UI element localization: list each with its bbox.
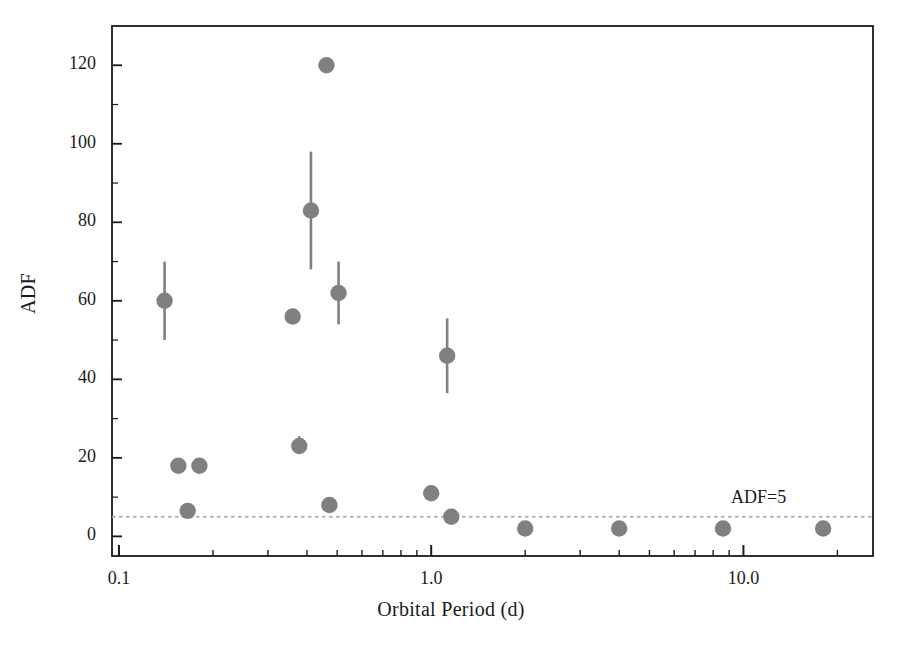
adf-threshold-annotation: ADF=5 — [731, 487, 786, 508]
data-point — [318, 57, 334, 73]
data-point — [303, 202, 319, 218]
y-axis-ticks — [112, 65, 122, 536]
data-points — [156, 57, 831, 537]
data-point — [815, 520, 831, 536]
data-point — [443, 509, 459, 525]
x-axis-ticks — [119, 545, 837, 556]
x-tick-label: 1.0 — [381, 568, 481, 589]
data-point — [170, 458, 186, 474]
data-point — [284, 308, 300, 324]
scatter-plot-canvas — [0, 0, 902, 645]
data-point — [321, 497, 337, 513]
data-point — [517, 520, 533, 536]
data-point — [423, 485, 439, 501]
axes-frame — [112, 26, 873, 556]
error-bars — [165, 152, 448, 454]
data-point — [330, 285, 346, 301]
data-point — [191, 458, 207, 474]
data-point — [291, 438, 307, 454]
data-point — [715, 520, 731, 536]
data-point — [156, 293, 172, 309]
data-point — [611, 520, 627, 536]
plot-border — [112, 26, 873, 556]
chart-figure: Orbital Period (d) ADF 0.11.010.0 020406… — [0, 0, 902, 645]
data-point — [439, 348, 455, 364]
y-tick-label: 40 — [24, 367, 96, 388]
y-tick-label: 100 — [24, 132, 96, 153]
data-point — [179, 503, 195, 519]
y-tick-label: 20 — [24, 446, 96, 467]
y-tick-label: 0 — [24, 524, 96, 545]
y-tick-label: 120 — [24, 53, 96, 74]
y-tick-label: 80 — [24, 210, 96, 231]
x-axis-label: Orbital Period (d) — [0, 598, 902, 621]
y-tick-label: 60 — [24, 289, 96, 310]
x-tick-label: 0.1 — [69, 568, 169, 589]
x-tick-label: 10.0 — [693, 568, 793, 589]
